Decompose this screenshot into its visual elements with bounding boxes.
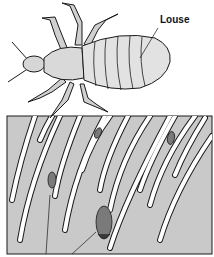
nit-4 [96, 206, 112, 238]
louse-antenna [12, 42, 28, 60]
louse-head [23, 56, 45, 72]
louse-label: Louse [160, 14, 189, 25]
louse [8, 3, 170, 118]
louse-antenna [8, 70, 26, 82]
louse-thorax [44, 47, 84, 80]
nit-3 [48, 172, 56, 188]
louse-hair-diagram: Louse [0, 0, 214, 257]
diagram-illustration [0, 0, 214, 257]
